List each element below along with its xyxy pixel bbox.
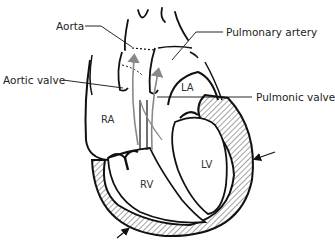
label-aorta: Aorta: [56, 21, 84, 32]
rv-wall-arrow: [117, 229, 128, 238]
label-rv: RV: [140, 180, 153, 190]
label-aortic-valve: Aortic valve: [3, 75, 65, 86]
label-la: LA: [181, 83, 194, 93]
label-pulmonary-artery: Pulmonary artery: [226, 27, 317, 38]
lv-wall-arrow: [255, 152, 275, 159]
label-pulmonic-valve: Pulmonic valve: [256, 92, 335, 103]
label-lv: LV: [201, 160, 212, 170]
ra-outline: [86, 60, 109, 160]
label-ra: RA: [101, 115, 114, 125]
great-vessels: [125, 8, 188, 50]
